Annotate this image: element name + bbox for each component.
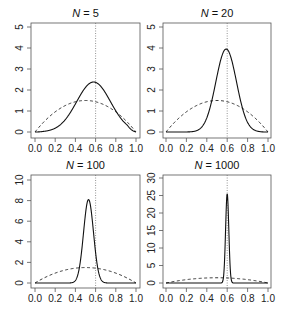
x-tick-label: 0.6	[220, 143, 234, 154]
panel-title: N = 20	[201, 7, 234, 19]
panel-title: N = 100	[66, 159, 105, 171]
y-tick-label: 1	[146, 108, 157, 114]
x-tick-label: 0.8	[109, 293, 123, 304]
x-tick-label: 0.6	[89, 293, 103, 304]
y-tick-label: 5	[146, 262, 157, 268]
x-tick-label: 0.2	[48, 143, 62, 154]
y-tick-label: 1	[14, 108, 25, 114]
y-tick-label: 15	[146, 225, 157, 237]
y-tick-label: 6	[14, 218, 25, 224]
panel-1000: N = 10000.00.20.40.60.81.0051015202530	[146, 159, 275, 304]
y-tick-label: 4	[146, 45, 157, 51]
y-tick-label: 25	[146, 190, 157, 202]
y-tick-label: 0	[146, 280, 157, 286]
prior-curve	[166, 278, 268, 283]
y-tick-label: 0	[146, 129, 157, 135]
posterior-curve	[166, 49, 268, 132]
y-tick-label: 2	[14, 259, 25, 265]
plot-frame	[31, 23, 140, 138]
panel-5: N = 50.00.20.40.60.81.0012345	[14, 7, 143, 154]
plot-frame	[163, 23, 271, 138]
x-tick-label: 1.0	[261, 293, 275, 304]
posterior-density-grid: N = 50.00.20.40.60.81.0012345N = 200.00.…	[0, 0, 284, 320]
prior-curve	[166, 101, 268, 133]
y-tick-label: 20	[146, 207, 157, 219]
y-tick-label: 30	[146, 172, 157, 184]
y-tick-label: 10	[146, 242, 157, 254]
x-tick-label: 1.0	[261, 143, 275, 154]
y-tick-label: 0	[14, 129, 25, 135]
x-tick-label: 1.0	[129, 293, 143, 304]
panel-title: N = 1000	[195, 159, 240, 171]
y-tick-label: 0	[14, 280, 25, 286]
y-tick-label: 2	[14, 87, 25, 93]
y-tick-label: 3	[146, 66, 157, 72]
y-tick-label: 2	[146, 87, 157, 93]
x-tick-label: 0.8	[109, 143, 123, 154]
y-tick-label: 5	[146, 24, 157, 30]
y-tick-label: 5	[14, 24, 25, 30]
x-tick-label: 0.0	[159, 293, 173, 304]
x-tick-label: 0.0	[159, 143, 173, 154]
plot-frame	[31, 175, 140, 288]
x-tick-label: 0.4	[200, 293, 214, 304]
x-tick-label: 0.2	[48, 293, 62, 304]
plot-frame	[163, 175, 271, 288]
posterior-curve	[35, 82, 136, 132]
panel-title: N = 5	[72, 7, 99, 19]
y-tick-label: 8	[14, 197, 25, 203]
y-tick-label: 4	[14, 239, 25, 245]
x-tick-label: 0.2	[179, 143, 193, 154]
panel-20: N = 200.00.20.40.60.81.0012345	[146, 7, 275, 154]
y-tick-label: 3	[14, 66, 25, 72]
x-tick-label: 0.4	[68, 143, 82, 154]
y-tick-label: 10	[14, 174, 25, 186]
prior-curve	[35, 268, 136, 283]
x-tick-label: 0.6	[220, 293, 234, 304]
x-tick-label: 0.8	[241, 293, 255, 304]
x-tick-label: 0.0	[28, 293, 42, 304]
x-tick-label: 1.0	[129, 143, 143, 154]
posterior-curve	[35, 200, 136, 283]
x-tick-label: 0.4	[200, 143, 214, 154]
posterior-curve	[166, 194, 268, 283]
panel-100: N = 1000.00.20.40.60.81.00246810	[14, 159, 143, 304]
prior-curve	[35, 101, 136, 133]
x-tick-label: 0.2	[179, 293, 193, 304]
x-tick-label: 0.6	[89, 143, 103, 154]
y-tick-label: 4	[14, 45, 25, 51]
x-tick-label: 0.0	[28, 143, 42, 154]
x-tick-label: 0.8	[241, 143, 255, 154]
x-tick-label: 0.4	[68, 293, 82, 304]
